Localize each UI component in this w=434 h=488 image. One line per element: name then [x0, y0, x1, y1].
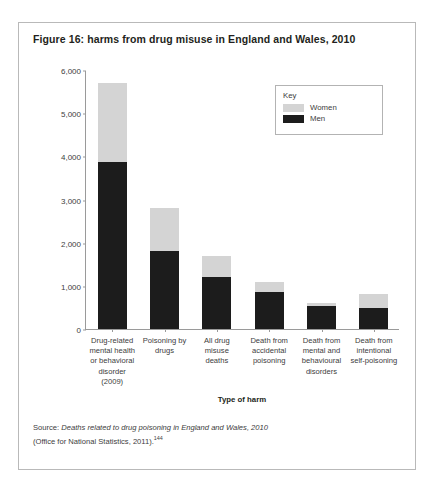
figure-card: Figure 16: harms from drug misuse in Eng… — [18, 22, 416, 470]
screenshot-root: Figure 16: harms from drug misuse in Eng… — [0, 0, 434, 488]
x-axis-category-1: Drug-relatedmental healthor behavioraldi… — [83, 336, 141, 387]
legend-item-men: Men — [283, 114, 375, 123]
y-axis-tickmark-3000 — [83, 200, 86, 201]
x-axis-tickmark-3 — [217, 329, 218, 332]
y-axis-tick-1000: 1,000 — [61, 282, 81, 291]
x-axis-tickmark-2 — [165, 329, 166, 332]
y-axis-tick-2000: 2,000 — [61, 239, 81, 248]
bar-segment-women-6 — [359, 294, 388, 308]
x-axis-tickmark-4 — [269, 329, 270, 332]
bar-3 — [202, 256, 231, 329]
chart-legend: Key WomenMen — [275, 85, 383, 135]
y-axis-tickmark-1000 — [83, 286, 86, 287]
bar-segment-women-2 — [150, 208, 179, 251]
x-axis-category-5: Death frommental andbehaviouraldisorders — [293, 336, 351, 377]
x-axis-title: Type of harm — [85, 395, 399, 404]
chart-container: Number of individuals 01,0002,0003,0004,… — [33, 57, 403, 407]
bar-segment-men-2 — [150, 251, 179, 329]
x-axis-tickmark-6 — [374, 329, 375, 332]
y-axis-tick-6000: 6,000 — [61, 67, 81, 76]
y-axis-tickmark-4000 — [83, 157, 86, 158]
source-publication: Deaths related to drug poisoning in Engl… — [61, 423, 268, 432]
bar-segment-men-4 — [255, 292, 284, 329]
y-axis-tickmark-0 — [83, 330, 86, 331]
y-axis-tick-5000: 5,000 — [61, 110, 81, 119]
legend-swatch-women — [283, 104, 304, 112]
bar-segment-women-3 — [202, 256, 231, 277]
bar-6 — [359, 294, 388, 329]
y-axis-tickmark-5000 — [83, 114, 86, 115]
legend-label-men: Men — [310, 114, 325, 123]
legend-entries: WomenMen — [283, 103, 375, 123]
y-axis-tick-3000: 3,000 — [61, 196, 81, 205]
figure-title: Figure 16: harms from drug misuse in Eng… — [33, 33, 355, 45]
legend-title: Key — [283, 91, 375, 100]
bar-segment-women-1 — [98, 83, 127, 162]
x-axis-category-3: All drugmisusedeaths — [188, 336, 246, 367]
legend-swatch-men — [283, 115, 304, 123]
source-note: Source: Deaths related to drug poisoning… — [33, 421, 403, 448]
y-axis-tick-4000: 4,000 — [61, 153, 81, 162]
x-axis-tickmark-1 — [112, 329, 113, 332]
x-axis-category-2: Poisoning bydrugs — [136, 336, 194, 356]
y-axis-tickmark-2000 — [83, 243, 86, 244]
bar-segment-men-6 — [359, 308, 388, 329]
bar-5 — [307, 303, 336, 329]
bar-1 — [98, 83, 127, 329]
x-axis-tickmark-5 — [322, 329, 323, 332]
bar-segment-men-5 — [307, 306, 336, 329]
legend-label-women: Women — [310, 103, 337, 112]
source-prefix: Source: — [33, 423, 61, 432]
legend-item-women: Women — [283, 103, 375, 112]
source-attribution: (Office for National Statistics, 2011). — [33, 437, 154, 446]
bar-segment-men-1 — [98, 162, 127, 329]
x-axis-category-6: Death fromintentionalself-poisoning — [345, 336, 403, 367]
footnote-marker: 144 — [154, 435, 163, 441]
bar-segment-men-3 — [202, 277, 231, 329]
bar-segment-women-4 — [255, 282, 284, 292]
bar-2 — [150, 208, 179, 329]
y-axis-tickmark-6000 — [83, 71, 86, 72]
bar-4 — [255, 282, 284, 329]
y-axis-tick-0: 0 — [77, 326, 81, 335]
x-axis-category-4: Death fromaccidentalpoisoning — [240, 336, 298, 367]
